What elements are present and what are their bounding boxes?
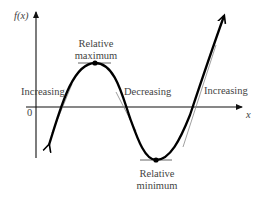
relative-max-label-line2: maximum <box>75 50 118 61</box>
increasing-right-label: Increasing <box>204 85 248 96</box>
relative-min-point <box>153 157 158 162</box>
x-axis-label: x <box>245 109 251 120</box>
relative-min-label-line2: minimum <box>137 180 178 191</box>
relative-min-label-line1: Relative <box>140 168 175 179</box>
function-diagram: f(x) x 0 Relative maximum Relative minim… <box>0 0 262 199</box>
y-axis-label: f(x) <box>14 10 29 22</box>
relative-max-label-line1: Relative <box>79 38 114 49</box>
tangent-right <box>183 45 216 147</box>
decreasing-label: Decreasing <box>124 86 172 97</box>
origin-label: 0 <box>27 107 32 118</box>
increasing-left-label: Increasing <box>21 86 65 97</box>
relative-max-point <box>92 60 97 65</box>
